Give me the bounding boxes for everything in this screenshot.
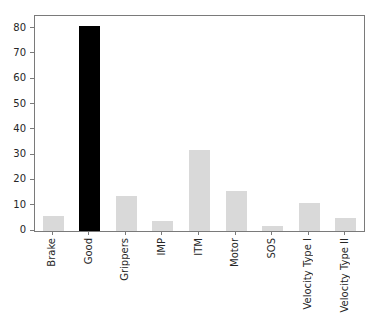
bar-velocity-type-ii (335, 218, 356, 231)
y-tick-mark (30, 103, 34, 104)
y-tick-label: 70 (0, 47, 26, 59)
y-tick-mark (30, 179, 34, 180)
bar-brake (43, 216, 64, 231)
x-tick-mark (125, 231, 126, 235)
y-tick-label: 30 (0, 148, 26, 160)
y-tick-mark (30, 27, 34, 28)
y-tick-mark (30, 78, 34, 79)
x-tick-mark (271, 231, 272, 235)
x-tick-mark (344, 231, 345, 235)
y-tick-mark (30, 128, 34, 129)
bar-motor (226, 191, 247, 231)
y-tick-label: 80 (0, 22, 26, 34)
x-tick-label-good: Good (83, 238, 95, 268)
x-tick-mark (235, 231, 236, 235)
x-tick-mark (161, 231, 162, 235)
y-tick-mark (30, 230, 34, 231)
x-tick-mark (88, 231, 89, 235)
x-tick-label-grippers: Grippers (119, 238, 131, 285)
x-tick-mark (308, 231, 309, 235)
y-tick-mark (30, 52, 34, 53)
bar-velocity-type-i (299, 203, 320, 231)
bar-sos (262, 226, 283, 231)
y-tick-label: 20 (0, 173, 26, 185)
x-tick-mark (198, 231, 199, 235)
x-tick-label-velocity-type-i: Velocity Type I (302, 238, 314, 314)
bar-itm (189, 150, 210, 231)
x-tick-label-motor: Motor (229, 238, 241, 271)
y-tick-mark (30, 204, 34, 205)
x-tick-mark (52, 231, 53, 235)
x-tick-label-imp: IMP (156, 238, 168, 260)
x-tick-label-velocity-type-ii: Velocity Type II (339, 238, 351, 316)
y-tick-label: 60 (0, 72, 26, 84)
bar-imp (152, 221, 173, 231)
x-tick-label-brake: Brake (46, 238, 58, 271)
y-tick-mark (30, 154, 34, 155)
y-tick-label: 50 (0, 98, 26, 110)
y-tick-label: 0 (0, 224, 26, 236)
x-tick-label-sos: SOS (266, 238, 278, 263)
plot-area (34, 15, 365, 232)
y-tick-label: 10 (0, 199, 26, 211)
bar-chart-figure: 01020304050607080 BrakeGoodGrippersIMPIT… (0, 0, 374, 327)
bar-grippers (116, 196, 137, 231)
x-tick-label-itm: ITM (193, 238, 205, 260)
bar-good (79, 26, 100, 231)
y-tick-label: 40 (0, 123, 26, 135)
